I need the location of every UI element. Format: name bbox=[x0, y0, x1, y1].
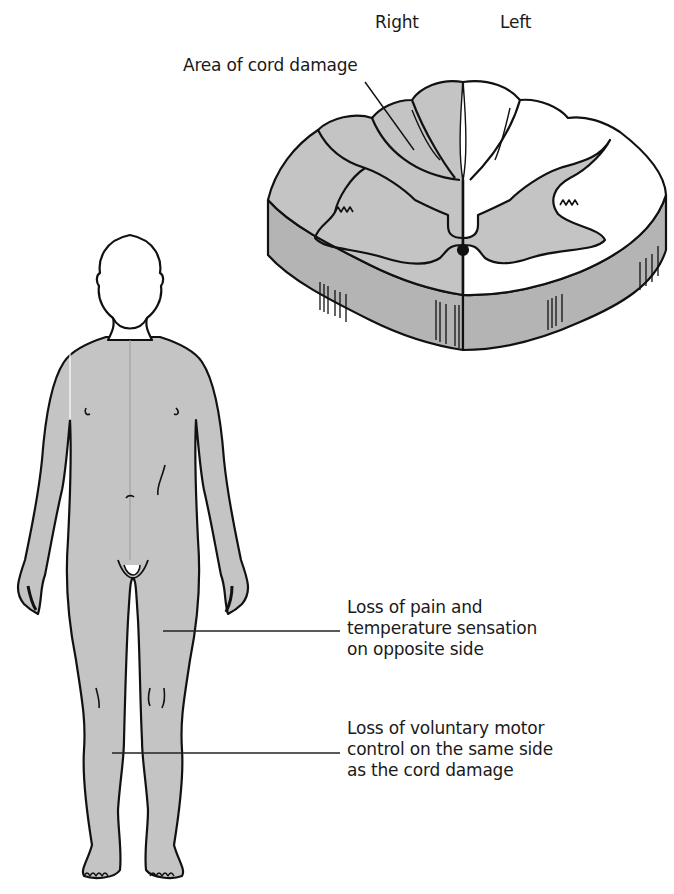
motor-control-annotation: Loss of voluntary motor control on the s… bbox=[347, 718, 553, 781]
illustration-canvas bbox=[0, 0, 674, 894]
cord-label-left: Left bbox=[500, 12, 531, 33]
pain-sensation-annotation: Loss of pain and temperature sensation o… bbox=[347, 597, 537, 660]
human-body-figure bbox=[18, 235, 248, 878]
cord-damage-label: Area of cord damage bbox=[183, 55, 358, 76]
central-canal-icon bbox=[458, 245, 468, 255]
body-silhouette bbox=[18, 337, 248, 878]
cord-label-right: Right bbox=[375, 12, 419, 33]
body-head bbox=[97, 235, 163, 340]
spinal-cord-cross-section bbox=[268, 81, 666, 350]
